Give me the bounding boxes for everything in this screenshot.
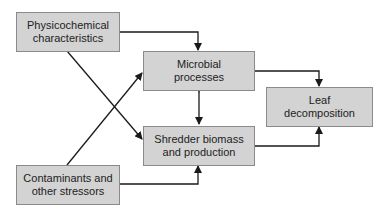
node-label: Contaminants and other stressors: [20, 172, 116, 198]
node-label: Shredder biomass and production: [149, 133, 249, 159]
node-contaminants-other-stressors: Contaminants and other stressors: [16, 165, 120, 205]
arrow-microbial-to-leaf: [254, 71, 319, 86]
node-microbial-processes: Microbial processes: [143, 51, 255, 91]
arrow-shredder-to-leaf: [254, 127, 319, 146]
arrow-contaminants-to-microbial: [67, 73, 142, 165]
node-label: Leaf decomposition: [280, 94, 360, 120]
arrow-physicochemical-to-microbial: [119, 32, 198, 50]
node-label: Microbial processes: [164, 58, 234, 84]
node-physicochemical-characteristics: Physicochemical characteristics: [16, 12, 120, 52]
arrow-physicochemical-to-shredder: [67, 51, 142, 139]
node-label: Physicochemical characteristics: [23, 19, 113, 45]
node-leaf-decomposition: Leaf decomposition: [266, 87, 373, 127]
arrow-contaminants-to-shredder: [119, 166, 198, 184]
node-shredder-biomass-production: Shredder biomass and production: [143, 126, 255, 166]
